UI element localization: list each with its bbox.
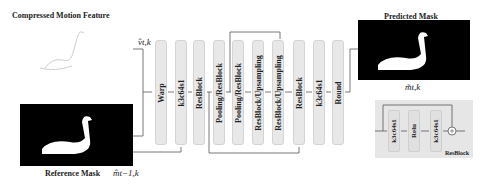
block-warp: Warp — [155, 40, 167, 145]
block-resblock-upsampling: ResBlock/Upsampling — [252, 40, 264, 145]
resblock-relu: Relu — [408, 110, 420, 152]
block-conv: k3c64s1 — [313, 40, 325, 145]
block-pooling-resblock: Pooling/ResBlock — [232, 40, 244, 145]
block-resblock: ResBlock — [293, 40, 305, 145]
reference-mask-image — [20, 104, 133, 166]
block-conv: k3c64s1 — [175, 40, 187, 145]
resblock-detail: k3c64s1 Relu k3c64s1 ResBlock — [375, 100, 473, 158]
block-round: Round — [332, 40, 344, 145]
motion-symbol: v̂t,k — [138, 37, 151, 47]
resblock-conv: k3c64s1 — [388, 110, 400, 152]
motion-swan-icon — [40, 32, 84, 70]
diagram: Compressed Motion Feature v̂t,k — [0, 0, 487, 184]
resblock-title: ResBlock — [445, 150, 469, 156]
swan-icon — [358, 20, 470, 80]
predicted-mask-image — [358, 20, 470, 80]
swan-icon — [20, 104, 133, 166]
block-resblock: ResBlock — [193, 40, 205, 145]
block-resblock-upsampling: ResBlock/Upsampling — [272, 40, 284, 145]
resblock-conv: k3c64s1 — [430, 110, 442, 152]
predicted-mask-symbol: m̃t,k — [405, 82, 420, 92]
reference-mask-symbol: m̂t−1,k — [113, 168, 139, 178]
block-pooling-resblock: Pooling/ResBlock — [213, 40, 225, 145]
reference-mask-label: Reference Mask — [45, 169, 100, 178]
